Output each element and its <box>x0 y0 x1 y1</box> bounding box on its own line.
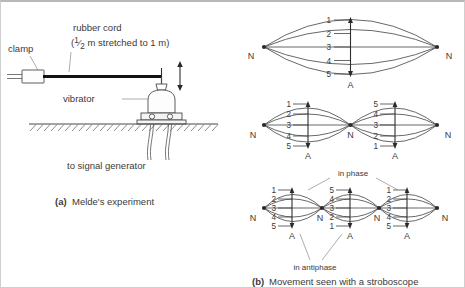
node-dot <box>262 206 266 210</box>
vibrator-terminal-left <box>149 114 154 119</box>
position-number: 4 <box>329 195 334 204</box>
position-number: 2 <box>373 132 378 141</box>
position-number: 1 <box>386 186 391 195</box>
node-label: N <box>445 130 452 140</box>
vibrator-terminal-right <box>167 114 172 119</box>
standing-waves-drawing: N N 1 2 3 4 5 <box>238 0 465 288</box>
position-number: 1 <box>286 100 291 109</box>
panel-b-caption-text: Movement seen with a stroboscope <box>269 276 418 287</box>
clamp-body <box>22 70 44 83</box>
clamp-leader <box>30 56 38 70</box>
position-number: 4 <box>286 132 291 141</box>
antinode-label: A <box>347 80 353 90</box>
mode-fundamental: N N 1 2 3 4 5 <box>248 16 453 90</box>
position-number: 5 <box>326 70 331 79</box>
position-number: 2 <box>386 195 391 204</box>
rubber-cord-leader <box>69 52 71 72</box>
panel-b-caption: (b) Movement seen with a stroboscope <box>252 276 418 287</box>
svg-text:(1⁄2 m stretched to 1 m): (1⁄2 m stretched to 1 m) <box>71 36 169 51</box>
node-dot <box>320 206 324 210</box>
position-number: 3 <box>326 43 331 52</box>
bench-hatching <box>30 125 218 132</box>
clamp-group <box>7 70 44 83</box>
position-number: 3 <box>286 121 291 130</box>
position-number: 5 <box>373 100 378 109</box>
apparatus-drawing: clamp rubber cord (1⁄2 m stretched to 1 … <box>0 0 238 288</box>
position-number: 4 <box>386 213 391 222</box>
panel-a-caption-text: Melde's experiment <box>72 196 154 207</box>
antinode-label: A <box>289 231 295 241</box>
panel-b-stroboscope: N N 1 2 3 4 5 <box>238 0 465 288</box>
node-dot <box>435 45 439 49</box>
position-number: 3 <box>271 204 276 213</box>
position-number: 4 <box>373 110 378 119</box>
mode-second-harmonic: N N N 1 2 3 4 5 <box>250 100 452 161</box>
node-dot <box>435 206 439 210</box>
position-number: 1 <box>373 142 378 151</box>
position-number: 5 <box>329 186 334 195</box>
node-label-left: N <box>248 51 255 61</box>
node-label: N <box>374 213 381 223</box>
node-label: N <box>250 213 257 223</box>
panel-b-caption-tag: (b) <box>252 276 264 287</box>
position-number: 5 <box>271 222 276 231</box>
vibrator-base <box>141 113 182 120</box>
position-number: 4 <box>326 57 331 66</box>
node-dot <box>348 123 352 127</box>
node-dot <box>435 123 439 127</box>
node-dot <box>262 123 266 127</box>
position-ticks <box>334 20 350 74</box>
in-antiphase-annotation: in antiphase <box>293 234 342 272</box>
position-ticks <box>380 104 395 146</box>
panel-a-caption-tag: (a) <box>55 196 67 207</box>
in-phase-annotation: in phase <box>308 169 398 190</box>
antinode-label: A <box>347 231 353 241</box>
signal-generator-label: to signal generator <box>67 160 146 171</box>
node-label: N <box>442 213 449 223</box>
signal-generator-wires <box>147 124 171 160</box>
position-number: 1 <box>271 186 276 195</box>
vibrator-label: vibrator <box>63 93 95 104</box>
clamp-label: clamp <box>8 43 33 54</box>
vibrator-dome <box>148 90 175 113</box>
vibrator-group <box>137 77 186 124</box>
vibrator-stem <box>156 84 167 90</box>
position-number: 2 <box>271 195 276 204</box>
rubber-cord-label: rubber cord <box>73 22 122 33</box>
antinode-label: A <box>305 151 311 161</box>
in-phase-label: in phase <box>338 169 369 178</box>
node-label: N <box>250 130 257 140</box>
bench-surface <box>29 124 218 131</box>
node-label: N <box>317 213 324 223</box>
rubber-cord-length-label: (1⁄2 m stretched to 1 m) <box>71 36 169 51</box>
node-label: N <box>347 130 354 140</box>
position-number: 3 <box>386 204 391 213</box>
position-number: 2 <box>326 30 331 39</box>
position-number: 2 <box>286 110 291 119</box>
in-antiphase-label: in antiphase <box>293 263 337 272</box>
figure-melde-experiment: clamp rubber cord (1⁄2 m stretched to 1 … <box>0 0 465 288</box>
length-suffix: m stretched to 1 m) <box>85 37 169 48</box>
position-number: 2 <box>329 213 334 222</box>
node-dot <box>377 206 381 210</box>
position-number: 1 <box>329 222 334 231</box>
node-dot <box>262 45 266 49</box>
position-number: 4 <box>271 213 276 222</box>
position-number: 5 <box>286 142 291 151</box>
panel-a-caption: (a) Melde's experiment <box>55 196 154 207</box>
mode-third-harmonic: N N N N 1 2 3 4 5 <box>250 169 449 272</box>
antinode-label: A <box>404 231 410 241</box>
position-ticks <box>293 104 308 146</box>
position-number: 3 <box>373 121 378 130</box>
antinode-label: A <box>392 151 398 161</box>
position-number: 5 <box>386 222 391 231</box>
position-number: 1 <box>326 16 331 25</box>
vibrator-foot <box>137 120 186 124</box>
panel-a-apparatus: clamp rubber cord (1⁄2 m stretched to 1 … <box>0 0 238 288</box>
oscillation-arrow <box>177 61 183 91</box>
position-number: 3 <box>329 204 334 213</box>
node-label-right: N <box>446 51 453 61</box>
